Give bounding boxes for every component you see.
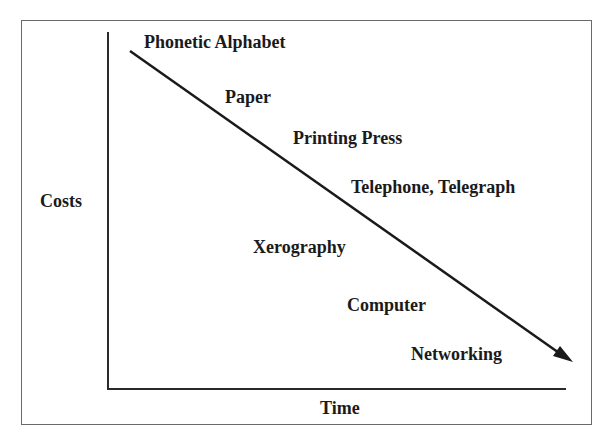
arrowhead-icon	[553, 346, 573, 362]
milestone-label: Xerography	[253, 238, 346, 256]
axes-and-trend-arrow	[0, 0, 608, 436]
y-axis-label: Costs	[40, 192, 82, 210]
milestone-label: Printing Press	[293, 129, 402, 147]
milestone-label: Phonetic Alphabet	[144, 33, 286, 51]
milestone-label: Paper	[225, 88, 271, 106]
cost-trend-line	[130, 51, 562, 355]
milestone-label: Networking	[411, 345, 502, 363]
x-axis-label: Time	[320, 399, 360, 417]
milestone-label: Telephone, Telegraph	[351, 178, 515, 196]
milestone-label: Computer	[347, 296, 426, 314]
